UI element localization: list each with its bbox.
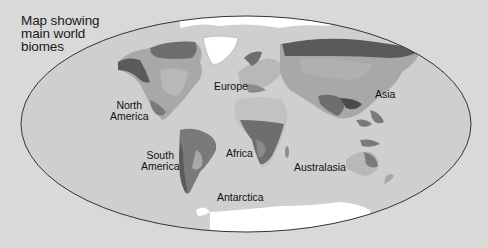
label-europe: Europe — [214, 81, 248, 92]
label-africa: Africa — [226, 148, 253, 159]
label-antarctica: Antarctica — [217, 192, 264, 203]
label-south-america: South America — [141, 150, 180, 172]
label-asia: Asia — [375, 89, 395, 100]
label-north-america: North America — [110, 100, 149, 122]
world-map — [0, 0, 488, 248]
label-australasia: Australasia — [294, 162, 346, 173]
